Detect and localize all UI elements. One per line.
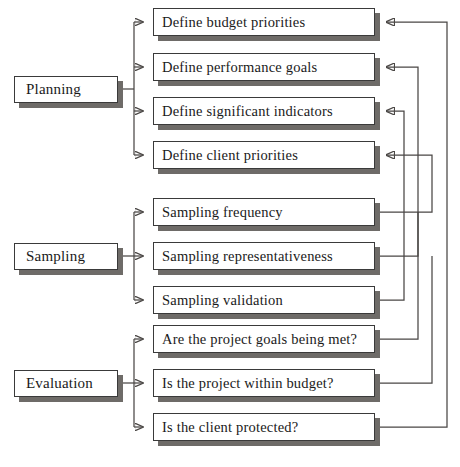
node-face: Sampling (14, 243, 118, 270)
task-node-client-protected[interactable]: Is the client protected? (153, 413, 375, 441)
node-face: Define client priorities (153, 141, 375, 169)
node-face: Evaluation (14, 370, 118, 397)
flow-diagram: Planning Sampling Evaluation Define budg… (0, 0, 460, 467)
task-label-project-within-budget: Is the project within budget? (154, 375, 334, 392)
node-face: Sampling validation (153, 286, 375, 314)
node-face: Sampling representativeness (153, 242, 375, 270)
task-node-define-budget-priorities[interactable]: Define budget priorities (153, 8, 375, 36)
node-face: Is the project within budget? (153, 369, 375, 397)
node-face: Define performance goals (153, 53, 375, 81)
node-face: Planning (14, 76, 118, 103)
task-label-sampling-frequency: Sampling frequency (154, 204, 283, 221)
task-node-define-performance-goals[interactable]: Define performance goals (153, 53, 375, 81)
phase-label-evaluation: Evaluation (15, 375, 93, 392)
node-face: Are the project goals being met? (153, 325, 375, 353)
node-face: Is the client protected? (153, 413, 375, 441)
node-face: Define budget priorities (153, 8, 375, 36)
task-label-client-protected: Is the client protected? (154, 419, 298, 436)
phase-node-evaluation[interactable]: Evaluation (14, 370, 118, 397)
task-label-project-goals-met: Are the project goals being met? (154, 331, 357, 348)
task-node-sampling-validation[interactable]: Sampling validation (153, 286, 375, 314)
task-label-sampling-representativeness: Sampling representativeness (154, 248, 333, 265)
task-node-define-client-priorities[interactable]: Define client priorities (153, 141, 375, 169)
task-node-project-within-budget[interactable]: Is the project within budget? (153, 369, 375, 397)
node-face: Define significant indicators (153, 97, 375, 125)
phase-label-planning: Planning (15, 81, 81, 98)
task-label-define-budget-priorities: Define budget priorities (154, 14, 305, 31)
task-label-define-significant-indicators: Define significant indicators (154, 103, 333, 120)
task-node-sampling-representativeness[interactable]: Sampling representativeness (153, 242, 375, 270)
task-node-define-significant-indicators[interactable]: Define significant indicators (153, 97, 375, 125)
phase-label-sampling: Sampling (15, 248, 85, 265)
phase-node-planning[interactable]: Planning (14, 76, 118, 103)
node-face: Sampling frequency (153, 198, 375, 226)
task-label-sampling-validation: Sampling validation (154, 292, 283, 309)
task-node-sampling-frequency[interactable]: Sampling frequency (153, 198, 375, 226)
task-label-define-client-priorities: Define client priorities (154, 147, 298, 164)
phase-node-sampling[interactable]: Sampling (14, 243, 118, 270)
task-label-define-performance-goals: Define performance goals (154, 59, 317, 76)
task-node-project-goals-met[interactable]: Are the project goals being met? (153, 325, 375, 353)
